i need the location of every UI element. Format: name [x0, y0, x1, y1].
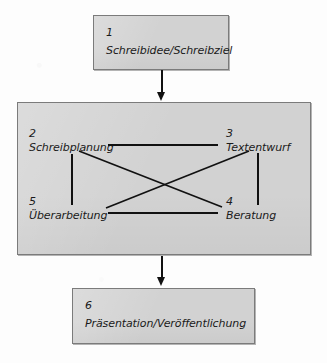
node-3: 3 Textentwurf [226, 128, 290, 153]
diagram-canvas: 1 Schreibidee/Schreibziel 2 Schreibplanu… [0, 0, 327, 363]
node-1-label: Schreibidee/Schreibziel [106, 45, 232, 56]
phase-group-box [17, 102, 311, 255]
node-4-label: Beratung [226, 210, 276, 221]
node-1-number: 1 [106, 27, 113, 38]
node-5-label: Überarbeitung [29, 210, 107, 221]
node-2: 2 Schreibplanung [29, 128, 114, 153]
box-shading [94, 16, 228, 69]
node-5: 5 Überarbeitung [29, 196, 107, 221]
node-2-label: Schreibplanung [29, 142, 114, 153]
arrow-1-head [157, 92, 165, 101]
node-box-1: 1 Schreibidee/Schreibziel [93, 15, 229, 70]
node-6-label: Präsentation/Veröffentlichung [85, 318, 246, 329]
node-box-6: 6 Präsentation/Veröffentlichung [72, 288, 255, 344]
node-2-number: 2 [29, 128, 114, 139]
box-shading [18, 103, 310, 254]
connector-2-5 [71, 154, 73, 205]
connector-5-4 [108, 212, 218, 214]
node-3-number: 3 [226, 128, 290, 139]
node-3-label: Textentwurf [226, 142, 290, 153]
connector-3-4 [257, 153, 259, 205]
arrow-2-shaft [161, 256, 163, 279]
connector-2-3 [108, 144, 218, 146]
node-4-number: 4 [226, 196, 276, 207]
node-5-number: 5 [29, 196, 107, 207]
node-6-number: 6 [85, 300, 92, 311]
node-4: 4 Beratung [226, 196, 276, 221]
arrow-1-shaft [161, 70, 163, 94]
box-shading [73, 289, 254, 343]
arrow-2-head [157, 277, 165, 286]
